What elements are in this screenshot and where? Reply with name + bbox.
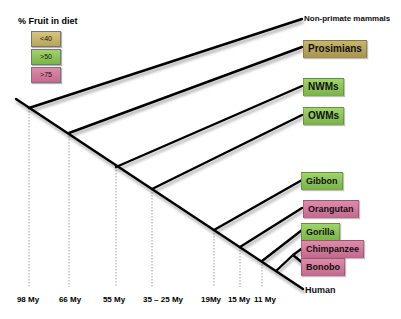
time-label-19: 19My <box>201 295 221 304</box>
taxon-non-primate-mammals: Non-primate mammals <box>304 11 390 27</box>
taxon-orangutan: Orangutan <box>303 200 359 218</box>
taxon-chimpanzee: Chimpanzee <box>301 240 364 258</box>
time-label-66: 66 My <box>59 295 81 304</box>
taxon-human: Human <box>305 282 336 298</box>
time-label-11: 11 My <box>254 295 276 304</box>
taxon-owms: OWMs <box>303 107 344 125</box>
taxon-gorilla: Gorilla <box>301 223 340 241</box>
time-label-98: 98 My <box>17 295 39 304</box>
legend-swatch-high: >75 <box>31 67 61 83</box>
time-label-35-25: 35 – 25 My <box>143 295 183 304</box>
taxon-nwms: NWMs <box>303 78 344 96</box>
time-label-55: 55 My <box>103 295 125 304</box>
taxon-bonobo: Bonobo <box>301 258 345 276</box>
legend-swatch-low: <40 <box>31 31 61 47</box>
taxon-gibbon: Gibbon <box>301 172 343 190</box>
taxon-prosimians: Prosimians <box>303 40 367 58</box>
time-guides <box>29 108 262 287</box>
legend-title: % Fruit in diet <box>18 16 78 26</box>
time-label-15: 15 My <box>228 295 250 304</box>
legend-swatch-mid: >50 <box>31 49 61 65</box>
